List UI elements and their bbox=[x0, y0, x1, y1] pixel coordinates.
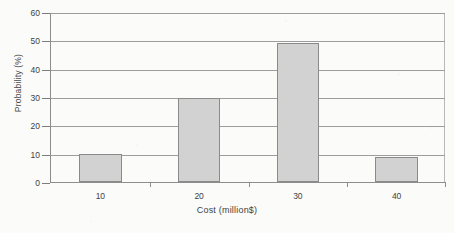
y-tick-50 bbox=[42, 41, 50, 42]
x-tick-30 bbox=[347, 182, 348, 187]
bar-40 bbox=[375, 157, 417, 183]
y-tick-label-60: 60 bbox=[31, 8, 40, 18]
y-tick-label-40: 40 bbox=[31, 65, 40, 75]
y-tick-20 bbox=[42, 126, 50, 127]
bar-30 bbox=[277, 43, 319, 182]
y-tick-30 bbox=[42, 98, 50, 99]
y-tick-label-20: 20 bbox=[31, 121, 40, 131]
x-tick-10 bbox=[150, 182, 151, 187]
x-tick-40 bbox=[445, 182, 446, 187]
y-tick-label-30: 30 bbox=[31, 93, 40, 103]
plot-area: 0102030405060 10203040 bbox=[50, 13, 445, 183]
bar-20 bbox=[178, 98, 220, 182]
y-tick-0 bbox=[42, 183, 50, 184]
x-axis-title: Cost (million$) bbox=[0, 205, 454, 215]
x-tick-20 bbox=[249, 182, 250, 187]
gridline-30 bbox=[51, 98, 445, 99]
y-tick-40 bbox=[42, 70, 50, 71]
gridline-50 bbox=[51, 41, 445, 42]
y-tick-label-50: 50 bbox=[31, 36, 40, 46]
bar-chart: Probability (%) 0102030405060 10203040 C… bbox=[0, 0, 454, 233]
x-tick-label-30: 30 bbox=[293, 191, 302, 201]
bar-10 bbox=[79, 154, 121, 182]
y-tick-label-10: 10 bbox=[31, 150, 40, 160]
gridline-20 bbox=[51, 126, 445, 127]
x-tick-label-10: 10 bbox=[96, 191, 105, 201]
y-tick-10 bbox=[42, 155, 50, 156]
x-tick-label-20: 20 bbox=[194, 191, 203, 201]
gridline-60 bbox=[51, 13, 445, 14]
y-axis-title: Probability (%) bbox=[13, 38, 23, 128]
y-tick-label-0: 0 bbox=[35, 178, 40, 188]
x-tick-label-40: 40 bbox=[392, 191, 401, 201]
gridline-40 bbox=[51, 70, 445, 71]
y-tick-60 bbox=[42, 13, 50, 14]
